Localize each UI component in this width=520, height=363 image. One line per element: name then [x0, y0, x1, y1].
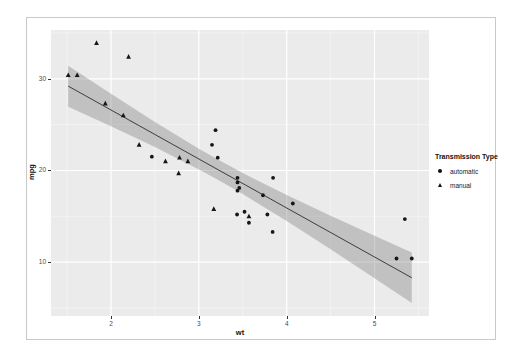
data-point-manual — [126, 54, 131, 59]
legend-items: automaticmanual — [435, 164, 498, 192]
x-tick-mark — [199, 316, 200, 319]
x-tick-label: 2 — [103, 320, 119, 328]
x-tick-mark — [111, 316, 112, 319]
data-point-automatic — [395, 257, 399, 261]
data-point-manual — [163, 159, 168, 164]
legend-key-triangle-icon — [435, 183, 444, 187]
legend-item-label: automatic — [450, 168, 478, 175]
scatter-plot-canvas — [51, 30, 429, 316]
plot-figure: wt mpg Transmission Type automaticmanual… — [26, 17, 496, 340]
data-point-automatic — [236, 180, 240, 184]
y-tick-label: 20 — [27, 166, 46, 174]
x-tick-label: 4 — [279, 320, 295, 328]
data-point-automatic — [236, 189, 240, 193]
data-point-automatic — [235, 213, 239, 217]
data-point-manual — [137, 142, 142, 147]
legend-item-label: manual — [450, 182, 471, 189]
y-tick-mark — [48, 170, 51, 171]
x-axis-title: wt — [210, 328, 270, 337]
screenshot-root: wt mpg Transmission Type automaticmanual… — [0, 0, 520, 363]
y-tick-mark — [48, 262, 51, 263]
legend: Transmission Type automaticmanual — [435, 153, 498, 192]
legend-key-circle-icon — [435, 169, 444, 173]
legend-title: Transmission Type — [435, 153, 498, 160]
data-point-automatic — [243, 210, 247, 214]
legend-item-automatic: automatic — [435, 164, 498, 178]
data-point-manual — [176, 171, 181, 176]
data-point-automatic — [247, 221, 251, 225]
data-point-automatic — [403, 217, 407, 221]
data-point-manual — [94, 40, 99, 45]
plot-panel — [51, 30, 429, 316]
data-point-automatic — [216, 156, 220, 160]
data-point-manual — [211, 206, 216, 211]
x-tick-mark — [287, 316, 288, 319]
data-point-automatic — [210, 143, 214, 147]
x-tick-label: 3 — [191, 320, 207, 328]
circle-icon — [438, 169, 442, 173]
y-tick-label: 30 — [27, 75, 46, 83]
data-point-automatic — [271, 176, 275, 180]
x-tick-mark — [375, 316, 376, 319]
data-point-automatic — [150, 155, 154, 159]
data-point-automatic — [214, 128, 218, 132]
data-point-automatic — [261, 193, 265, 197]
confidence-ribbon — [68, 66, 412, 303]
data-point-automatic — [410, 257, 414, 261]
triangle-icon — [438, 183, 442, 187]
data-point-automatic — [236, 176, 240, 180]
data-point-automatic — [271, 230, 275, 234]
y-tick-label: 10 — [27, 258, 46, 266]
y-tick-mark — [48, 79, 51, 80]
data-point-automatic — [291, 202, 295, 206]
regression-line — [68, 86, 412, 278]
legend-item-manual: manual — [435, 178, 498, 192]
data-point-automatic — [265, 213, 269, 217]
x-tick-label: 5 — [367, 320, 383, 328]
